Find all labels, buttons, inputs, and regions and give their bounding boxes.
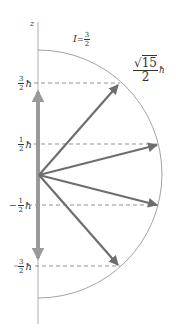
level-label-3-2: 32ħ	[18, 75, 32, 92]
diagram-canvas	[0, 0, 176, 332]
magnitude-den: 2	[142, 71, 150, 84]
radicand: 15	[142, 55, 157, 70]
magnitude-label: √15 2 ħ	[133, 56, 165, 84]
magnitude-fraction: √15 2	[133, 56, 158, 84]
hbar-unit: ħ	[25, 200, 31, 211]
hbar-unit: ħ	[159, 65, 165, 75]
sqrt-sign: √	[134, 56, 142, 70]
level-den: 2	[19, 206, 23, 214]
spin-fraction: 32	[84, 31, 90, 48]
level-num: 3	[18, 75, 24, 84]
level-label-1-2: 12ħ	[18, 136, 32, 153]
projection-lines	[14, 83, 158, 266]
level-den: 2	[19, 267, 23, 275]
level-den: 2	[19, 84, 23, 92]
spin-quantization-diagram: z I=32 √15 2 ħ 32ħ 12ħ −12ħ 32ħ	[0, 0, 176, 332]
hbar-unit: ħ	[25, 261, 31, 272]
hbar-unit: ħ	[25, 139, 31, 150]
level-label-neg-3-2: 32ħ	[18, 258, 32, 275]
spin-den: 2	[85, 40, 89, 48]
level-num: 1	[18, 197, 24, 206]
hbar-unit: ħ	[25, 78, 31, 89]
magnitude-num: √15	[133, 56, 158, 71]
spin-label: I=32	[73, 31, 90, 48]
equals-sign: =	[77, 35, 84, 44]
spin-vectors	[39, 85, 157, 265]
magnitude-arc	[38, 50, 162, 298]
spin-num: 3	[84, 31, 90, 40]
z-axis-label: z	[30, 20, 34, 28]
level-den: 2	[19, 145, 23, 153]
level-label-neg-1-2: −12ħ	[9, 197, 31, 214]
minus-sign: −	[9, 200, 17, 210]
level-num: 3	[18, 258, 24, 267]
level-num: 1	[18, 136, 24, 145]
